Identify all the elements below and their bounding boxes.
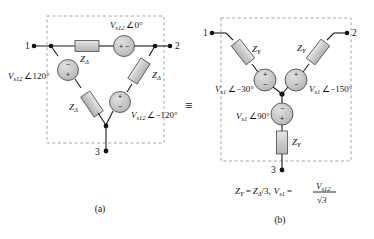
terminal-a-3-label: 3: [95, 147, 100, 157]
equation-fraction-denominator: √3: [317, 195, 327, 205]
impedance-b-bottom: [277, 131, 288, 154]
wire-a-right-upper: [149, 46, 155, 56]
panel-b-caption: (b): [274, 215, 285, 226]
source-a-top-label: Vs12∠0°: [110, 20, 143, 31]
terminal-a-3-dot-outer: [104, 149, 109, 154]
wire-b-node2-bend: [327, 33, 334, 40]
impedance-b-upper-right-label: ZY: [297, 43, 307, 54]
figure-container: ZΔ + − Vs12∠0° 1 2 − + Vs12∠120°: [0, 0, 374, 239]
source-a-left-minus: −: [66, 61, 70, 68]
terminal-a-1-dot-outer: [32, 44, 37, 49]
wire-b-ul-lower: [252, 64, 258, 72]
terminal-b-1-label: 1: [203, 28, 208, 38]
circuit-figure-svg: ZΔ + − Vs12∠0° 1 2 − + Vs12∠120°: [0, 0, 374, 239]
source-a-right-plus: +: [118, 93, 122, 100]
source-b-right-label: Vs1∠−150°: [309, 84, 353, 95]
wire-a-right-lower: [106, 111, 113, 125]
source-b-bottom-plus: +: [280, 115, 284, 122]
panel-a-caption: (a): [95, 204, 106, 215]
impedance-a-left-group: [81, 91, 104, 117]
source-b-bottom-minus: −: [280, 105, 284, 112]
panel-a-group: ZΔ + − Vs12∠0° 1 2 − + Vs12∠120°: [8, 16, 180, 215]
impedance-a-left: [81, 91, 104, 117]
equivalence-symbol: ≡: [185, 98, 192, 113]
source-a-left-label: Vs12∠120°: [8, 71, 50, 82]
impedance-a-top-label: ZΔ: [80, 54, 89, 65]
panel-b-equation: ZY=ZΔ/3,Vs1= Vs12 √3: [235, 181, 336, 205]
impedance-a-right-label: ZΔ: [152, 70, 161, 81]
impedance-b-ur-group: [306, 39, 329, 65]
source-b-right-plus: +: [294, 71, 298, 78]
terminal-a-2-label: 2: [175, 41, 180, 51]
source-a-right-minus: −: [118, 103, 122, 110]
source-b-right-minus: −: [294, 81, 298, 88]
source-a-right-label: Vs12∠−120°: [131, 110, 178, 121]
source-b-left-minus: −: [263, 81, 267, 88]
terminal-b-3-label: 3: [271, 165, 276, 175]
wire-b-node1-bend: [226, 33, 233, 40]
equation-fraction-numerator: Vs12: [316, 181, 331, 192]
impedance-a-right-group: [128, 58, 150, 84]
impedance-b-bottom-label: ZY: [292, 137, 302, 148]
wire-b-ur-lower: [303, 64, 309, 72]
wire-a-left-mid: [75, 79, 81, 88]
impedance-b-upper-left-label: ZY: [252, 44, 262, 55]
panel-b-group: 1 ZY + − Vs1∠−30° 2: [203, 18, 357, 226]
source-b-bottom-label: Vs1∠90°: [236, 111, 270, 122]
source-a-left-plus: +: [66, 71, 70, 78]
wire-a-left-upper: [51, 46, 58, 56]
wire-a-right-mid: [127, 84, 132, 92]
terminal-a-1-label: 1: [25, 41, 30, 51]
impedance-a-right: [128, 58, 150, 84]
impedance-a-left-label: ZΔ: [69, 102, 78, 113]
terminal-b-2-label: 2: [352, 28, 357, 38]
source-b-left-plus: +: [263, 71, 267, 78]
wire-a-left-lower: [98, 113, 106, 125]
impedance-b-upper-right: [306, 39, 329, 65]
impedance-a-top: [75, 41, 99, 52]
terminal-b-3-dot: [280, 168, 285, 173]
equation-impedance-part: ZY=ZΔ/3,Vs1=: [235, 186, 292, 197]
source-a-top-polarity: + −: [119, 43, 129, 50]
